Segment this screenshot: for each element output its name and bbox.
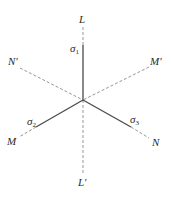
label-L: L <box>78 13 85 25</box>
principal-stress-axes-diagram: L L′ N′ M′ M N σ1 σ2 σ3 <box>0 0 172 197</box>
label-M: M <box>6 135 17 147</box>
axis-N-prime-dashed <box>20 68 83 100</box>
label-N: N <box>151 136 160 148</box>
label-M-prime: M′ <box>149 55 162 67</box>
axis-M-solid-sigma2 <box>36 100 83 127</box>
label-sigma2: σ2 <box>27 115 36 129</box>
axis-N-dashed <box>131 127 149 138</box>
axis-N-solid-sigma3 <box>83 100 131 127</box>
label-sigma3: σ3 <box>130 113 139 127</box>
label-L-prime: L′ <box>77 176 87 188</box>
label-sigma1: σ1 <box>70 42 79 56</box>
axis-M-prime-dashed <box>83 67 149 100</box>
label-N-prime: N′ <box>7 55 18 67</box>
